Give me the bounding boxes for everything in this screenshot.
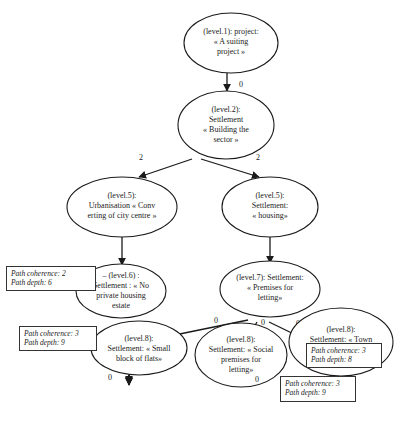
path-depth: Path depth: 9	[285, 388, 351, 397]
path-depth: Path depth: 8	[311, 355, 377, 364]
path-depth: Path depth: 9	[24, 338, 92, 347]
path-coherence: Path coherence: 3	[24, 329, 92, 338]
path-coherence: Path coherence: 2	[11, 269, 91, 278]
path-note-3: Path coherence: 3 Path depth: 8	[306, 343, 382, 368]
path-note-2: Path coherence: 3 Path depth: 9	[19, 326, 97, 351]
path-coherence: Path coherence: 3	[285, 379, 351, 388]
path-coherence: Path coherence: 3	[311, 346, 377, 355]
path-note-4: Path coherence: 3 Path depth: 9	[280, 376, 356, 402]
path-depth: Path depth: 6	[11, 278, 91, 287]
path-note-1: Path coherence: 2 Path depth: 6	[6, 266, 96, 291]
